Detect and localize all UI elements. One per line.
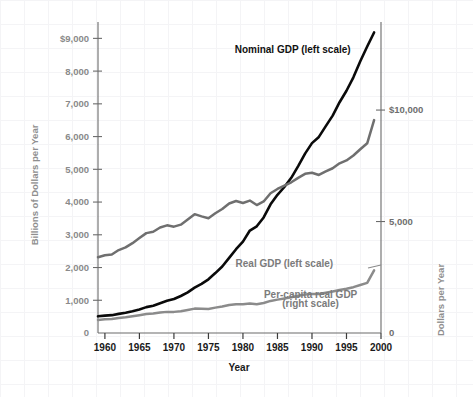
x-tick-label: 1975 bbox=[197, 342, 220, 353]
y-tick-label-left: $9,000 bbox=[60, 33, 89, 44]
y-tick-label-right: $10,000 bbox=[389, 104, 423, 115]
x-tick-label: 1980 bbox=[232, 342, 255, 353]
x-tick-label: 1985 bbox=[266, 342, 289, 353]
y-tick-label-left: 6,000 bbox=[65, 131, 89, 142]
series-annotations: Nominal GDP (left scale)Real GDP (left s… bbox=[235, 44, 358, 309]
annotation-per-capita-right-scale: (right scale) bbox=[282, 298, 339, 309]
x-tick-label: 1960 bbox=[94, 342, 117, 353]
x-tick-label: 1970 bbox=[163, 342, 186, 353]
x-tick-label: 1990 bbox=[301, 342, 324, 353]
series-group bbox=[98, 32, 374, 319]
y-axis-right-title: Dollars per Year bbox=[435, 264, 446, 336]
leader-real-gdp bbox=[368, 265, 381, 268]
y-tick-label-left: 8,000 bbox=[65, 66, 89, 77]
annotation-nominal-gdp: Nominal GDP (left scale) bbox=[235, 44, 351, 55]
x-axis-title: Year bbox=[228, 362, 249, 373]
annotation-real-gdp: Real GDP (left scale) bbox=[236, 258, 334, 269]
series-line-nominal-gdp bbox=[98, 32, 374, 316]
x-tick-label: 2000 bbox=[370, 342, 393, 353]
leader-lines-group bbox=[368, 265, 381, 268]
x-axis-ticks: 196019651970197519801985199019952000 bbox=[94, 333, 393, 353]
axes-group bbox=[98, 22, 381, 333]
y-axis-left-title: Billions of Dollars per Year bbox=[29, 124, 40, 245]
y-tick-label-left: 3,000 bbox=[65, 229, 89, 240]
y-tick-label-right: 5,000 bbox=[389, 216, 413, 227]
y-axis-left-ticks: 01,0002,0003,0004,0005,0006,0007,0008,00… bbox=[60, 33, 102, 339]
y-tick-label-right: 0 bbox=[389, 327, 394, 338]
x-tick-label: 1995 bbox=[335, 342, 358, 353]
series-line-per-capita-real-gdp bbox=[98, 120, 374, 257]
y-tick-label-left: 0 bbox=[84, 327, 89, 338]
y-axis-right-ticks: 05,000$10,000 bbox=[376, 104, 423, 338]
y-tick-label-left: 1,000 bbox=[65, 295, 89, 306]
chart-figure: 01,0002,0003,0004,0005,0006,0007,0008,00… bbox=[0, 0, 473, 397]
chart-canvas: 01,0002,0003,0004,0005,0006,0007,0008,00… bbox=[0, 0, 473, 397]
y-tick-label-left: 7,000 bbox=[65, 98, 89, 109]
y-tick-label-left: 4,000 bbox=[65, 196, 89, 207]
x-tick-label: 1965 bbox=[128, 342, 151, 353]
y-tick-label-left: 2,000 bbox=[65, 262, 89, 273]
y-tick-label-left: 5,000 bbox=[65, 164, 89, 175]
